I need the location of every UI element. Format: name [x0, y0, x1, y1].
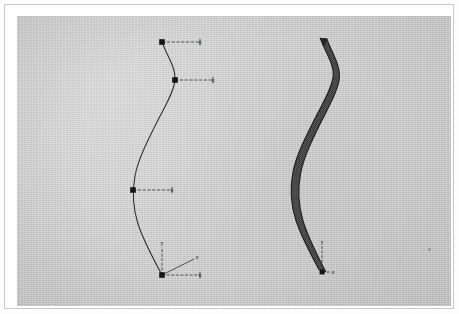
right-y-axis-label: y — [321, 239, 324, 245]
z-axis-label: x — [196, 254, 199, 260]
control-point-2[interactable]: x — [172, 77, 214, 84]
left-coordinate-triad: y x x — [159, 240, 201, 278]
right-coordinate-triad: y x — [320, 239, 335, 275]
origin-node[interactable] — [159, 272, 165, 278]
control-node-3[interactable] — [130, 187, 136, 193]
control-point-1[interactable]: x — [159, 39, 201, 46]
right-x-axis-label: x — [332, 269, 335, 275]
control-node-2[interactable] — [172, 77, 178, 83]
z-axis-line — [162, 259, 194, 275]
scan-speck — [428, 248, 431, 251]
figure-page: x x x — [0, 0, 459, 314]
figure-drawing: x x x — [17, 16, 451, 306]
y-axis-label: y — [161, 240, 164, 246]
figure-canvas: x x x — [17, 16, 451, 306]
mesh-band-edge-left — [291, 38, 333, 270]
right-origin-node[interactable] — [320, 269, 325, 274]
right-panel: y x — [291, 38, 339, 275]
control-point-3[interactable]: x — [130, 187, 173, 194]
spline-curve — [133, 42, 175, 275]
plate-border: x x x — [4, 4, 454, 309]
control-node-1[interactable] — [159, 39, 165, 45]
left-panel: x x x — [130, 39, 214, 279]
